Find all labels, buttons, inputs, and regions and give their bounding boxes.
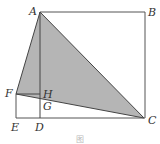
label-d: D — [34, 121, 44, 134]
label-a: A — [28, 5, 37, 18]
geometry-diagram: A B C D E F G H 图 — [0, 0, 160, 144]
label-e: E — [10, 121, 19, 134]
figure-caption: 图 — [76, 135, 84, 144]
label-g: G — [43, 100, 52, 113]
label-b: B — [147, 6, 156, 19]
label-h: H — [42, 88, 53, 101]
label-f: F — [4, 87, 13, 100]
label-c: C — [148, 114, 157, 127]
shaded-triangle-afc — [16, 12, 144, 118]
